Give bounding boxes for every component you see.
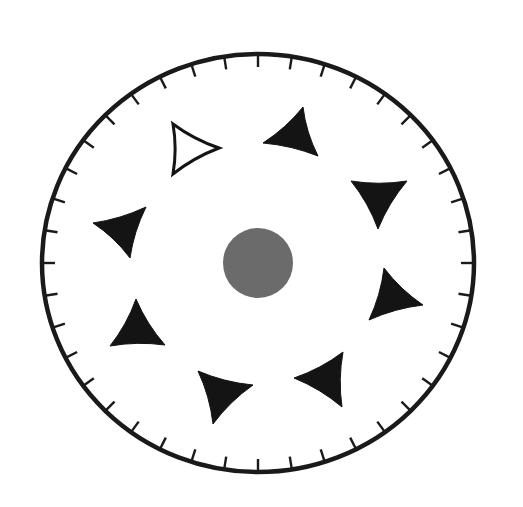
dial-canvas <box>0 0 523 507</box>
center-dot <box>223 228 293 298</box>
outlined-triangle-marker <box>173 124 219 174</box>
filled-triangle-marker <box>369 268 423 320</box>
filled-triangle-marker <box>110 299 165 346</box>
filled-triangle-marker <box>294 352 343 407</box>
filled-triangle-marker <box>93 207 146 258</box>
filled-triangle-marker <box>263 107 318 156</box>
dial-diagram <box>0 0 523 507</box>
filled-triangle-marker <box>198 371 253 424</box>
filled-triangle-marker <box>351 181 407 229</box>
